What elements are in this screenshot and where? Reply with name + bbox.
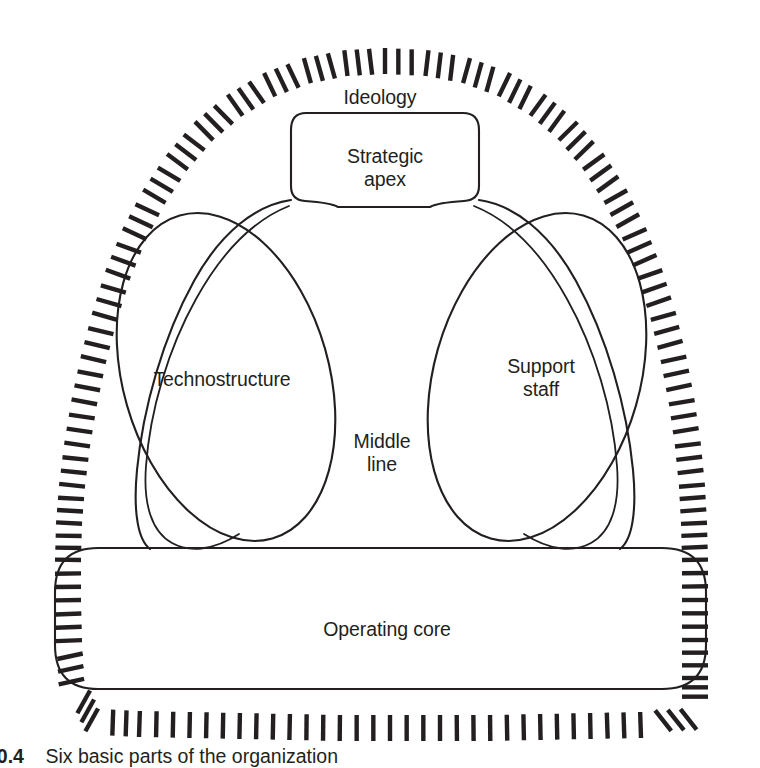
support-staff-oval (392, 187, 683, 567)
figure-caption: 20.4 Six basic parts of the organization (0, 745, 760, 768)
ideology-hash-tick (549, 111, 564, 132)
ideology-hash-tick (681, 523, 707, 524)
ideology-hash-tick (62, 457, 88, 460)
ideology-hash-tick (369, 49, 372, 75)
ideology-hash-tick (72, 399, 98, 404)
ideology-hash-tick (158, 168, 180, 181)
ideology-hash-tick (680, 497, 706, 499)
ideology-hash-tick (597, 176, 618, 191)
ideology-hash-tick (228, 94, 243, 115)
ideology-hash-tick (590, 165, 611, 180)
ideology-hash-tick (559, 122, 578, 140)
ideology-hash-tick (540, 103, 555, 124)
ideology-hash-tick (58, 666, 83, 671)
ideology-hash-tick (276, 69, 287, 92)
ideology-hash-tick (55, 613, 81, 614)
ideology-hash-tick (666, 385, 691, 390)
ideology-hash-tick (316, 56, 323, 81)
ideology-hash-tick (654, 327, 679, 334)
ideology-hash-tick (638, 270, 663, 279)
figure-caption-text: Six basic parts of the organization (45, 745, 338, 767)
organization-diagram (0, 0, 760, 768)
ideology-hash-tick (628, 242, 652, 252)
ideology-hash-tick (223, 713, 224, 739)
ideology-hash-tick (249, 82, 264, 103)
technostructure-outer-contour (145, 206, 289, 549)
ideology-hash-tick (573, 713, 574, 739)
ideology-hash-tick (583, 154, 604, 169)
ideology-hash-tick (610, 202, 633, 215)
ideology-hash-tick (151, 179, 173, 192)
technostructure-oval (81, 187, 372, 567)
ideology-hash-tick (664, 371, 689, 376)
ideology-hash-tick (540, 714, 541, 740)
ideology-hash-tick (616, 214, 639, 227)
ideology-hash-tick (189, 712, 190, 738)
ideology-hash-tick (658, 341, 683, 348)
ideology-hash-tick (143, 190, 165, 203)
ideology-hash-tick (139, 711, 140, 737)
ideology-hash-tick (175, 144, 196, 160)
ideology-hash-tick (92, 313, 117, 320)
ideology-hash-tick (681, 535, 707, 536)
ideology-hash-tick (57, 510, 83, 511)
ideology-hash-tick (304, 58, 311, 83)
ideology-hash-tick (126, 710, 127, 736)
ideology-hash-tick (450, 55, 453, 81)
ideology-hash-tick (69, 415, 95, 419)
ideology-hash-tick (640, 712, 641, 738)
ideology-hash-tick (56, 627, 82, 628)
ideology-hash-tick (661, 357, 686, 362)
ideology-hash-tick (61, 471, 87, 474)
ideology-hash-tick (676, 457, 702, 460)
ideology-hash-tick (499, 73, 510, 96)
ideology-hash-tick (184, 135, 205, 151)
ideology-hash-tick (256, 713, 257, 739)
ideology-hash-tick (135, 204, 159, 215)
ideology-hash-tick (264, 73, 275, 96)
ideology-hash-tick (289, 714, 290, 740)
ideology-hash-tick (59, 484, 85, 487)
ideology-hash-tick (575, 141, 594, 159)
ideology-hash-tick (463, 58, 470, 83)
ideology-hash-tick (675, 443, 701, 446)
ideology-hash-tick (642, 284, 667, 293)
ideology-hash-tick (425, 50, 428, 76)
ideology-hash-tick (633, 255, 657, 265)
ideology-hash-tick (58, 498, 84, 499)
ideology-hash-tick (671, 414, 697, 418)
ideology-hash-tick (239, 713, 240, 739)
ideology-hash-tick (623, 712, 624, 738)
ideology-hash-tick (167, 154, 188, 170)
ideology-hash-tick (214, 106, 232, 125)
figure-container: Ideology Strategic apex Technostructure … (0, 0, 760, 768)
ideology-hash-tick (64, 443, 90, 447)
ideology-hash-tick (509, 79, 520, 102)
figure-caption-number: 20.4 (0, 745, 24, 767)
ideology-hash-tick (123, 228, 147, 239)
ideology-hash-tick (88, 328, 113, 334)
ideology-hash-tick (646, 297, 671, 306)
ideology-hash-tick (590, 713, 591, 739)
operating-core-shape (55, 548, 706, 689)
ideology-hash-tick (328, 53, 335, 78)
ideology-hash-tick (56, 640, 82, 641)
ideology-hash-tick (519, 86, 530, 109)
ideology-hash-tick (156, 711, 157, 737)
ideology-hash-tick (669, 400, 695, 404)
ideology-hash-tick (273, 714, 274, 740)
ideology-hash-tick (678, 470, 704, 473)
ideology-hash-halo (55, 48, 708, 741)
ideology-hash-tick (507, 715, 508, 741)
ideology-hash-tick (206, 712, 207, 738)
ideology-hash-tick (567, 132, 586, 150)
ideology-hash-tick (682, 547, 708, 548)
ideology-hash-tick (357, 50, 360, 76)
ideology-hash-tick (205, 114, 223, 133)
ideology-hash-tick (530, 95, 545, 116)
ideology-hash-tick (680, 509, 706, 511)
ideology-hash-tick (557, 714, 558, 740)
ideology-hash-tick (129, 216, 153, 227)
ideology-hash-tick (84, 342, 109, 348)
ideology-hash-tick (112, 710, 113, 736)
